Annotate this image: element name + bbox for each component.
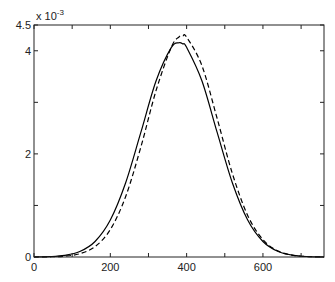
y-scale-exponent: -3 <box>57 8 65 17</box>
y-scale-base: x 10 <box>36 10 57 22</box>
x-tick-label: 0 <box>31 261 37 273</box>
y-tick-label: 4 <box>25 45 31 57</box>
x-tick-label: 400 <box>177 261 195 273</box>
x-tick-label: 600 <box>254 261 272 273</box>
y-tick-label: 2 <box>25 148 31 160</box>
y-tick-label: 4.5 <box>16 19 31 31</box>
line-chart: 02004006000244.5 x 10-3 <box>0 0 335 282</box>
y-tick-label: 0 <box>25 251 31 263</box>
x-tick-label: 200 <box>101 261 119 273</box>
chart-background <box>0 0 335 282</box>
